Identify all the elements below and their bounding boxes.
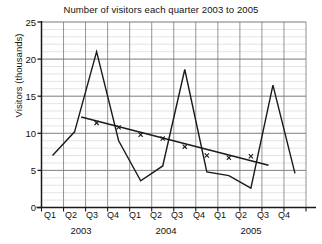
x-tick-2003-q4: Q4 (102, 211, 124, 220)
x-tick-2005-q4: Q4 (273, 211, 295, 220)
year-label-2005: 2005 (221, 226, 281, 236)
x-tick-2004-q4: Q4 (188, 211, 210, 220)
x-tick-2004-q2: Q2 (145, 211, 167, 220)
year-label-2004: 2004 (136, 226, 196, 236)
trend-line (81, 117, 268, 165)
x-tick-2004-q1: Q1 (124, 211, 146, 220)
x-tick-2003-q2: Q2 (60, 211, 82, 220)
x-tick-2005-q1: Q1 (209, 211, 231, 220)
x-tick-2005-q2: Q2 (230, 211, 252, 220)
x-tick-2004-q3: Q3 (166, 211, 188, 220)
x-tick-2003-q1: Q1 (39, 211, 61, 220)
x-tick-2005-q3: Q3 (252, 211, 274, 220)
year-label-2003: 2003 (51, 226, 111, 236)
axis-lines (37, 21, 317, 208)
chart-container: Number of visitors each quarter 2003 to … (0, 0, 322, 244)
x-tick-2003-q3: Q3 (81, 211, 103, 220)
chart-plot-svg (0, 0, 322, 244)
